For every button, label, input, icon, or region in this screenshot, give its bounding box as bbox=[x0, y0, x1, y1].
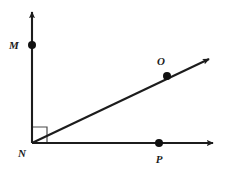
point-m bbox=[28, 41, 36, 49]
point-p-label: P bbox=[156, 153, 163, 165]
figure-background bbox=[0, 0, 226, 172]
point-m-label: M bbox=[8, 39, 20, 51]
point-o bbox=[163, 72, 171, 80]
point-o-label: O bbox=[157, 55, 165, 67]
geometry-figure: M O P N bbox=[0, 0, 226, 172]
point-p bbox=[155, 139, 163, 147]
vertex-n-label: N bbox=[17, 147, 27, 159]
geometry-canvas: M O P N bbox=[0, 0, 226, 172]
